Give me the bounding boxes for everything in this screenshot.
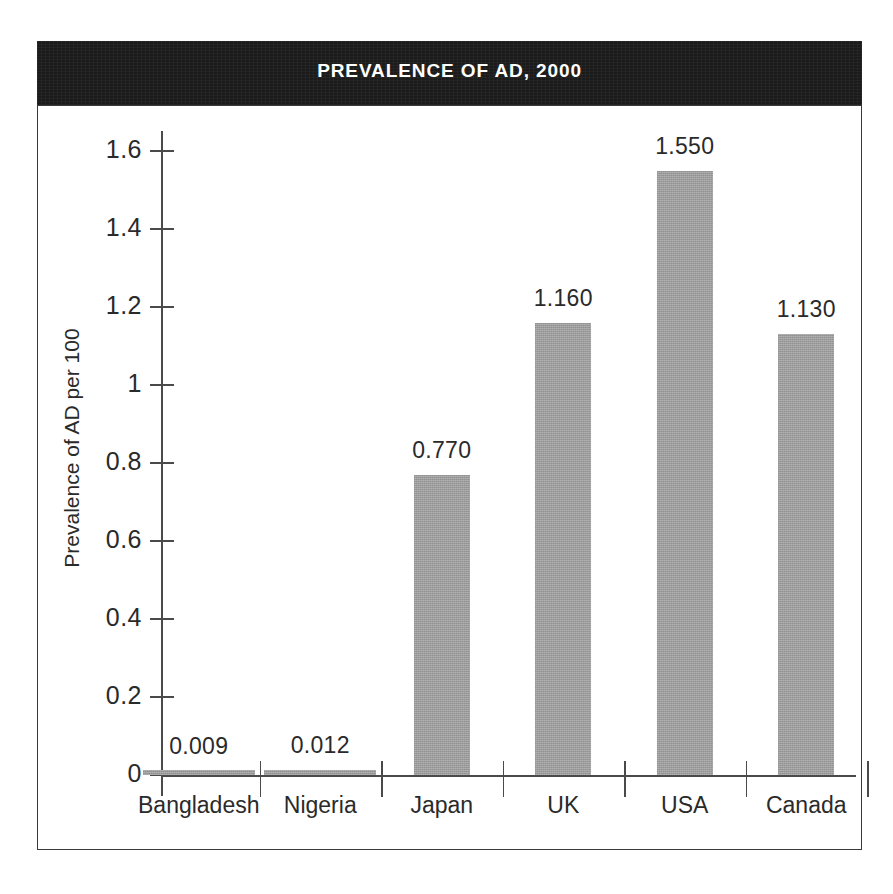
chart-figure: PREVALENCE OF AD, 2000 Prevalence of AD … — [0, 0, 893, 894]
y-axis-tick — [150, 150, 174, 152]
plot-frame: Prevalence of AD per 100 00.20.40.60.811… — [37, 105, 862, 850]
y-axis-tick — [150, 696, 174, 698]
plot-area: Prevalence of AD per 100 00.20.40.60.811… — [38, 106, 863, 851]
bar-value-label: 0.770 — [372, 437, 512, 464]
title-banner: PREVALENCE OF AD, 2000 — [37, 41, 862, 105]
y-axis-tick-label: 0 — [38, 759, 142, 788]
y-axis-tick — [150, 618, 174, 620]
y-axis-tick-label: 1.2 — [38, 291, 142, 320]
bar — [414, 475, 470, 775]
bar-value-label: 1.160 — [493, 285, 633, 312]
bar — [778, 334, 834, 775]
y-axis-tick-label: 0.8 — [38, 447, 142, 476]
bar — [264, 770, 376, 775]
bar-value-label: 1.130 — [736, 296, 876, 323]
bar-value-label: 0.012 — [250, 732, 390, 759]
y-axis-tick-label: 1.4 — [38, 213, 142, 242]
y-axis-tick — [150, 306, 174, 308]
chart-title: PREVALENCE OF AD, 2000 — [37, 60, 862, 82]
y-axis-tick-label: 1 — [38, 369, 142, 398]
x-axis-category-label: Canada — [726, 792, 886, 819]
y-axis-tick-label: 0.6 — [38, 525, 142, 554]
bar-value-label: 1.550 — [615, 133, 755, 160]
y-axis-tick — [150, 228, 174, 230]
y-axis-tick-label: 1.6 — [38, 135, 142, 164]
bar-value-label: 0.009 — [129, 733, 269, 760]
y-axis-tick — [150, 384, 174, 386]
bar — [535, 323, 591, 775]
y-axis-tick-label: 0.4 — [38, 603, 142, 632]
y-axis-tick — [150, 540, 174, 542]
x-axis-line — [161, 775, 856, 777]
y-axis-tick — [150, 462, 174, 464]
bar — [657, 171, 713, 776]
bar — [143, 770, 255, 775]
y-axis-tick-label: 0.2 — [38, 681, 142, 710]
